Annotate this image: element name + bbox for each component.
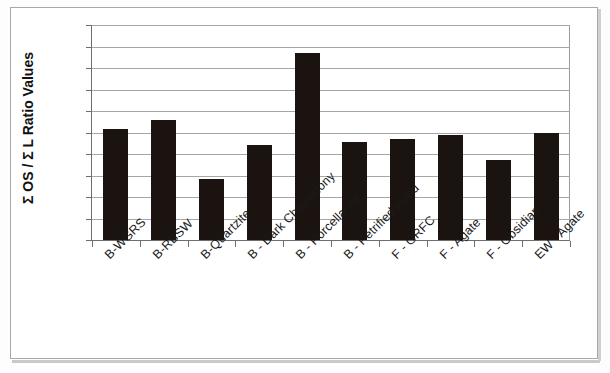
bar-series — [92, 25, 570, 240]
bar — [438, 135, 463, 240]
x-axis-tick — [474, 241, 475, 247]
figure-root: Σ OS / Σ L Ratio Values 0.050.0450.040.0… — [0, 0, 610, 373]
x-axis-tick — [427, 241, 428, 247]
x-axis-tick — [331, 241, 332, 247]
figure-frame-shadow-bottom — [12, 360, 600, 363]
x-axis-tick — [283, 241, 284, 247]
x-axis-tick — [235, 241, 236, 247]
figure-frame-shadow-right — [598, 9, 601, 361]
x-axis-tick — [379, 241, 380, 247]
x-axis-tick — [522, 241, 523, 247]
x-axis-tick — [188, 241, 189, 247]
x-axis-tick — [92, 241, 93, 247]
x-axis-tick — [570, 241, 571, 247]
bar — [103, 129, 128, 240]
y-axis-tick-labels: 0.050.0450.040.0350.030.0250.020.0150.01… — [0, 0, 84, 373]
bar — [534, 133, 559, 241]
bar — [247, 145, 272, 240]
x-axis-tick — [140, 241, 141, 247]
bar — [151, 120, 176, 240]
